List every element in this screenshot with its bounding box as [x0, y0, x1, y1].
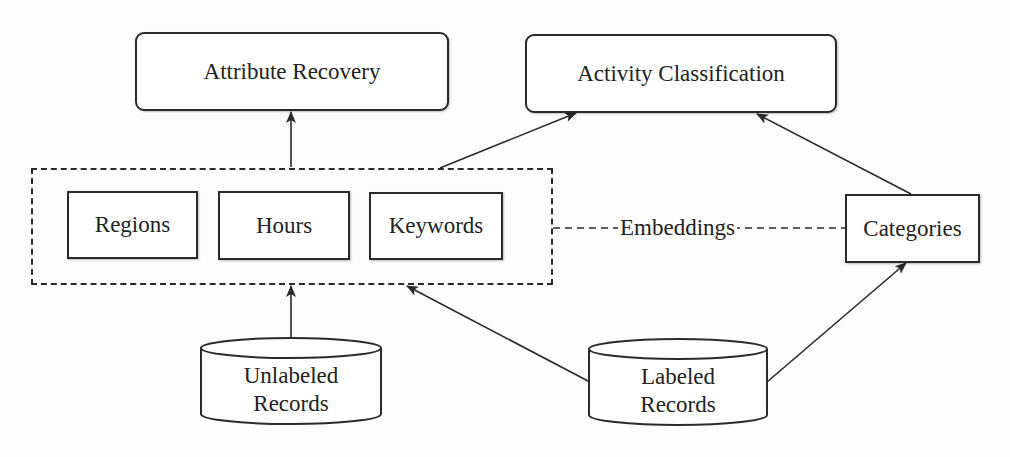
activity-classification-box: Activity Classification: [525, 34, 837, 113]
labeled-records-line1: Labeled: [587, 363, 769, 391]
embeddings-label: Embeddings: [618, 216, 737, 239]
arrow-features-to-activity-classification: [440, 113, 576, 168]
unlabeled-records-database: Unlabeled Records: [199, 334, 383, 428]
categories-box: Categories: [845, 194, 980, 263]
attribute-recovery-box: Attribute Recovery: [135, 32, 449, 111]
labeled-records-line2: Records: [587, 391, 769, 419]
arrow-labeled-to-features: [407, 286, 588, 381]
labeled-records-database: Labeled Records: [587, 335, 769, 429]
regions-label: Regions: [95, 212, 170, 238]
arrow-categories-to-activity-classification: [757, 114, 911, 194]
keywords-box: Keywords: [369, 192, 503, 260]
unlabeled-records-line1: Unlabeled: [199, 362, 383, 390]
keywords-label: Keywords: [389, 213, 484, 239]
arrow-labeled-to-categories: [767, 263, 906, 382]
unlabeled-records-line2: Records: [199, 390, 383, 418]
hours-box: Hours: [218, 191, 350, 260]
attribute-recovery-label: Attribute Recovery: [204, 59, 381, 85]
regions-box: Regions: [67, 191, 198, 259]
categories-label: Categories: [863, 216, 961, 242]
hours-label: Hours: [256, 213, 312, 239]
activity-classification-label: Activity Classification: [577, 61, 785, 87]
